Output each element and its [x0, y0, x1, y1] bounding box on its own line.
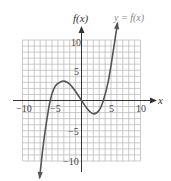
x-axis-label: x	[157, 94, 163, 106]
x-tick-5: 5	[109, 103, 114, 114]
curve-arrow-down-icon	[38, 172, 43, 180]
y-axis-label: f(x)	[73, 12, 89, 25]
y-tick-10: 10	[71, 37, 81, 48]
x-tick-neg10: −10	[16, 103, 32, 114]
y-axis-arrow-icon	[79, 26, 85, 33]
x-tick-10: 10	[136, 103, 146, 114]
x-tick-neg5: −5	[50, 103, 61, 114]
function-graph: x f(x) y = f(x) −10 −5 5 10 10 5 −5 −10	[0, 0, 171, 181]
y-tick-neg10: −10	[63, 156, 79, 167]
x-axis-arrow-icon	[150, 98, 157, 104]
y-tick-5: 5	[74, 66, 79, 77]
y-tick-neg5: −5	[68, 126, 79, 137]
